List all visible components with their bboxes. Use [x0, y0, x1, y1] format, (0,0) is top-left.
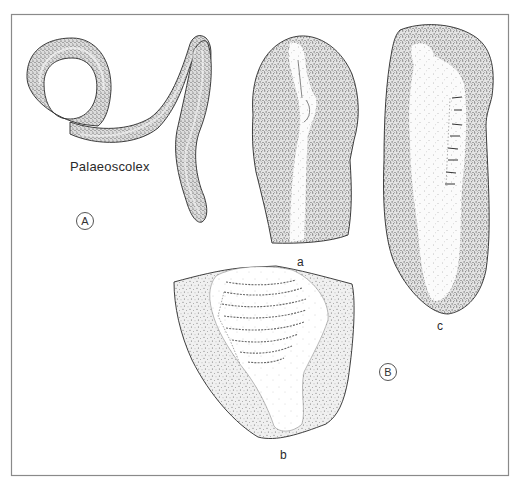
figure-illustration [0, 0, 522, 487]
panel-a-marker: A [76, 212, 94, 230]
specimen-c [384, 25, 494, 314]
specimen-a-label: a [297, 255, 304, 269]
palaeoscolex-worm [27, 36, 211, 223]
panel-b-marker: B [379, 363, 397, 381]
figure-plate: Palaeoscolex A a c B b [0, 0, 522, 487]
specimen-b [174, 266, 354, 439]
specimen-b-label: b [280, 448, 287, 462]
specimen-a [252, 36, 358, 243]
specimen-c-label: c [437, 319, 443, 333]
genus-label: Palaeoscolex [70, 160, 150, 174]
